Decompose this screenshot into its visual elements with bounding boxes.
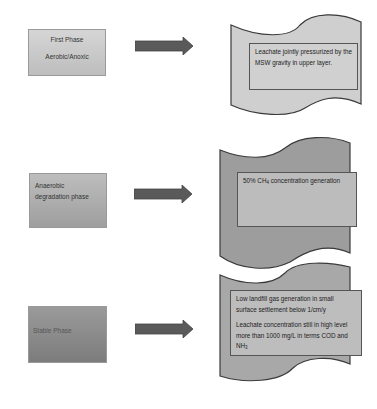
phase-2-box: Anaerobic degradation phase [29,173,107,228]
phase-2-description-box: 50% CH4 concentration generation [237,172,357,227]
phase-1-subtitle: Aerobic/Anoxic [29,53,105,60]
phase-3-description-b-text: Leachate concentration still in high lev… [236,321,348,349]
phase-1-box: First Phase Aerobic/Anoxic [28,29,106,76]
phase-1-description: Leachate jointly pressurized by the MSW … [255,48,352,66]
arrow-right-icon [135,37,193,55]
phase-2-title-line1: Anaerobic [35,180,106,191]
phase-3-box: Stable Phase [28,306,107,363]
arrow-right-icon [134,185,192,203]
phase-1-description-box: Leachate jointly pressurized by the MSW … [249,43,358,90]
phase-2-description-suffix: concentration generation [269,177,340,184]
phase-3-description-box: Low landfill gas generation in small sur… [230,290,362,356]
phase-2-title-line2: degradation phase [35,191,106,202]
phase-2-description-prefix: 50% CH [243,177,266,184]
arrow-right-icon [135,320,193,338]
phase-3-description-a: Low landfill gas generation in small sur… [236,294,356,315]
phase-3-description-b: Leachate concentration still in high lev… [236,320,356,354]
phase-3-title: Stable Phase [33,327,106,334]
phase-3-description-b-subscript: 3 [245,345,248,350]
phase-1-title: First Phase [29,36,105,43]
